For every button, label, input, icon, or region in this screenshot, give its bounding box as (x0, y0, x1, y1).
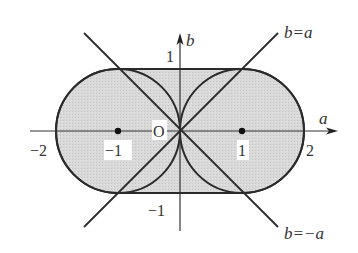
label-b-equals-a: b=a (284, 23, 312, 42)
tick-label-minus-1-y: −1 (148, 202, 165, 219)
point-1 (239, 128, 245, 134)
tick-label-1-x: 1 (238, 142, 246, 159)
tick-label-2-x: 2 (306, 142, 314, 159)
label-b-equals-minus-a: b=−a (284, 224, 324, 243)
a-axis-label: a (319, 109, 328, 128)
origin-label: O (153, 123, 165, 140)
tick-label-minus-2: −2 (30, 142, 47, 159)
tick-label-1-y: 1 (166, 48, 174, 65)
b-axis-label: b (186, 31, 195, 50)
point-minus-1 (115, 128, 121, 134)
tick-label-minus-1-x: −1 (105, 142, 122, 159)
region-diagram: O a b −2 −1 1 2 1 −1 b=a b=−a (0, 0, 358, 253)
